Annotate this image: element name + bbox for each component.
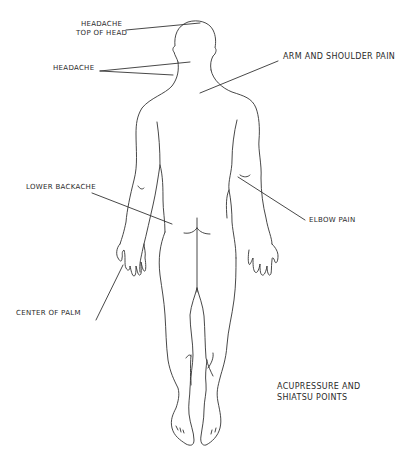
left-knee-mark [186, 355, 191, 358]
label-elbow: Elbow pain [309, 216, 356, 225]
left-arm-crease [160, 165, 165, 232]
right-hand [248, 244, 278, 275]
right-arm-crease [226, 190, 229, 218]
leader-elbow [238, 177, 305, 220]
leader-headache-2 [100, 71, 173, 75]
right-inner-leg [197, 288, 213, 376]
left-shoulder-outline [120, 62, 178, 244]
left-inner-leg [190, 288, 197, 385]
label-headache-top-line1: Headache [76, 20, 127, 29]
right-elbow-mark [240, 175, 250, 177]
buttock-left [184, 228, 197, 233]
title-line1: Acupressure and [277, 381, 361, 392]
right-shoulder-outline [211, 70, 272, 244]
left-inner-arm [140, 122, 160, 272]
leader-headache-1 [100, 62, 190, 71]
left-elbow-mark [138, 186, 144, 189]
left-leg-outline [159, 232, 194, 445]
label-headache-top-line2: top of head [76, 29, 127, 38]
right-inner-arm [229, 120, 237, 258]
label-headache: Headache [53, 64, 94, 73]
title-line2: Shiatsu points [277, 392, 361, 403]
label-arm-shoulder: Arm and shoulder pain [283, 52, 395, 61]
label-lower-backache: Lower backache [26, 183, 96, 192]
diagram-title: Acupressure and Shiatsu points [277, 381, 361, 403]
buttock-right [197, 228, 210, 234]
leader-headache-top [126, 23, 200, 30]
right-toes [211, 428, 216, 434]
leader-arm-shoulder [200, 61, 278, 93]
acupressure-diagram: Headache top of head Headache Arm and sh… [0, 0, 418, 453]
label-headache-top: Headache top of head [76, 20, 127, 38]
left-hand [117, 244, 146, 276]
leader-palm [96, 265, 123, 320]
leader-lower-backache [92, 193, 172, 224]
label-palm: Center of palm [16, 309, 81, 318]
left-toes [176, 426, 184, 433]
